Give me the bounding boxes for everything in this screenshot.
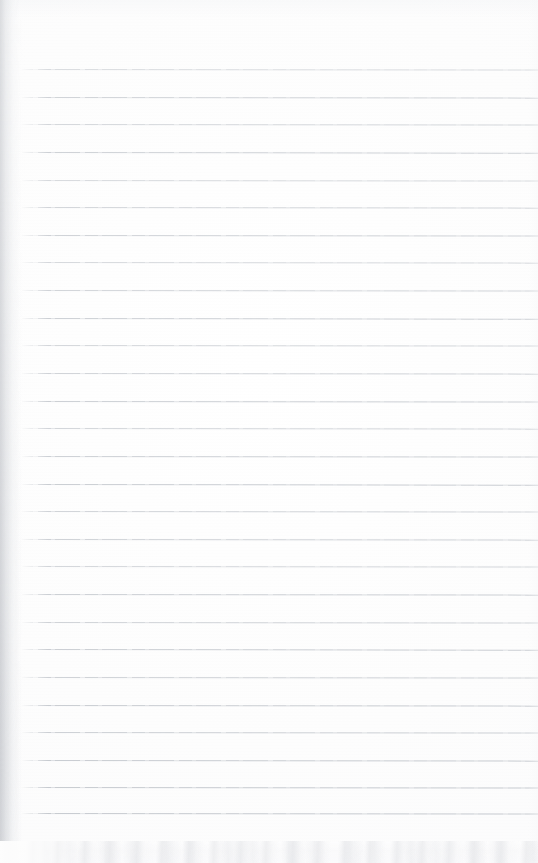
- ruled-line: [22, 484, 538, 486]
- ruled-line: [22, 152, 538, 154]
- ruled-line: [22, 318, 538, 320]
- ruled-line: [22, 511, 538, 513]
- ruled-line: [22, 677, 538, 679]
- ruled-line: [22, 456, 538, 458]
- ruled-line: [22, 180, 538, 182]
- ruled-line: [22, 787, 538, 789]
- ruled-line: [22, 290, 538, 292]
- ruled-line: [22, 705, 538, 707]
- ruled-line: [22, 235, 538, 236]
- ruled-lines-layer: [0, 0, 538, 863]
- ruled-line: [22, 539, 538, 541]
- ruled-line: [22, 649, 538, 651]
- ruled-line: [22, 732, 538, 733]
- ruled-line: [22, 594, 538, 596]
- left-spine-shadow-deep: [0, 0, 22, 863]
- scanned-notebook-page: Blank lined notebook page scan: [0, 0, 538, 863]
- ruled-line: [22, 124, 538, 125]
- bottom-band-mottle-texture: [0, 841, 538, 863]
- right-edge-shadow: [528, 0, 538, 863]
- ruled-line: [22, 428, 538, 430]
- ruled-line: [22, 622, 538, 624]
- ruled-line: [22, 401, 538, 402]
- ruled-line: [22, 207, 538, 209]
- page-header-blank-space: [0, 0, 538, 69]
- ruled-line: [22, 345, 538, 347]
- top-edge-shadow: [0, 0, 538, 18]
- ruled-line: [22, 262, 538, 264]
- paper-grain-layer: [0, 0, 538, 863]
- ruled-line: [22, 97, 538, 99]
- ruled-line: [22, 760, 538, 762]
- ruled-line: [22, 373, 538, 375]
- ruled-line: [22, 69, 538, 71]
- left-spine-shadow: [0, 0, 26, 863]
- ruled-line: [22, 566, 538, 567]
- bottom-scan-edge-band: [0, 841, 538, 863]
- ruled-line: [22, 813, 538, 815]
- paper-tone-layer: [0, 0, 538, 863]
- bottom-band-left-fade: [0, 841, 78, 863]
- ruled-line: [22, 841, 538, 843]
